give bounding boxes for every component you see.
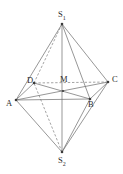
- edge-S1-C: [62, 24, 108, 82]
- vertex-label-text-c: C: [112, 74, 118, 84]
- edges-layer: [16, 24, 108, 152]
- vertex-label-text-d: D: [27, 75, 33, 85]
- edge-S2-B: [62, 99, 90, 152]
- vertex-dot-a: [15, 99, 18, 102]
- vertex-label-text-b: B: [88, 99, 94, 109]
- vertex-label-text-a: A: [6, 98, 12, 108]
- vertex-dot-s1: [61, 23, 64, 26]
- vertex-label-subscript-s2: 2: [63, 161, 66, 167]
- edge-S2-C: [62, 82, 108, 152]
- vertex-label-d: D: [27, 76, 33, 85]
- figure-canvas: [0, 0, 123, 174]
- geometry-figure: S1S2ABCDM: [0, 0, 123, 174]
- vertex-dot-m: [62, 90, 64, 92]
- edge-S2-A: [16, 100, 62, 152]
- edge-C-D: [34, 82, 108, 83]
- vertex-label-subscript-s1: 1: [63, 15, 66, 21]
- vertex-label-c: C: [112, 75, 118, 84]
- vertex-label-b: B: [88, 100, 94, 109]
- edge-A-B: [16, 99, 90, 100]
- vertex-label-s2: S2: [58, 156, 66, 167]
- vertex-label-text-m: M: [60, 74, 68, 84]
- edge-B-C: [90, 82, 108, 99]
- edge-S2-D: [34, 83, 62, 152]
- vertex-label-s1: S1: [58, 10, 66, 21]
- vertex-label-a: A: [6, 99, 12, 108]
- edge-S1-B: [62, 24, 90, 99]
- edge-S1-A: [16, 24, 62, 100]
- vertex-dot-c: [107, 81, 110, 84]
- edge-S1-D: [34, 24, 62, 83]
- vertex-label-m: M: [60, 75, 68, 84]
- vertex-dot-s2: [61, 151, 64, 154]
